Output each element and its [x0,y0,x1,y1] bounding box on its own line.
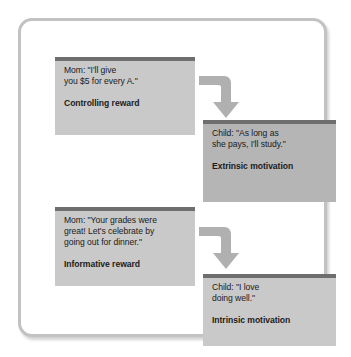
diagram-frame: Mom: "I'll give you $5 for every A." Con… [18,18,327,337]
node-informative-reward: Mom: "Your grades were great! Let's cele… [55,207,195,286]
node-top-bar [203,120,336,124]
node-label: Intrinsic motivation [212,304,327,326]
node-label: Controlling reward [64,87,186,109]
node-label: Extrinsic motivation [212,150,327,172]
node-extrinsic-motivation: Child: "As long as she pays, I'll study.… [203,120,336,202]
node-label: Informative reward [64,248,186,270]
node-quote: Child: "As long as she pays, I'll study.… [212,128,327,150]
flow-diagram-figure: Mom: "I'll give you $5 for every A." Con… [0,0,351,357]
node-top-bar [55,57,195,61]
node-quote: Child: "I love doing well." [212,282,327,304]
node-intrinsic-motivation: Child: "I love doing well." Intrinsic mo… [203,274,336,346]
node-controlling-reward: Mom: "I'll give you $5 for every A." Con… [55,57,195,135]
node-top-bar [203,274,336,278]
arrow-controlling-to-extrinsic-icon [197,73,243,121]
node-top-bar [55,207,195,211]
arrow-informative-to-intrinsic-icon [197,224,243,272]
node-quote: Mom: "Your grades were great! Let's cele… [64,215,186,248]
node-quote: Mom: "I'll give you $5 for every A." [64,65,186,87]
